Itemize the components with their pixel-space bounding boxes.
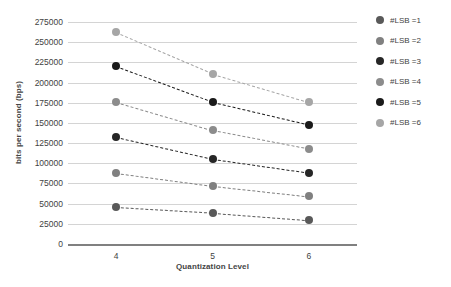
x-tick-label: 5 — [210, 251, 215, 261]
legend-marker-icon — [376, 78, 384, 86]
series-line-segment — [212, 74, 309, 103]
y-tick-label: 100000 — [35, 158, 63, 168]
data-point-marker — [112, 28, 120, 36]
y-tick-label: 25000 — [39, 219, 63, 229]
data-point-marker — [305, 98, 313, 106]
y-tick-label: 125000 — [35, 138, 63, 148]
x-axis-line — [68, 244, 357, 246]
y-tick-label: 175000 — [35, 98, 63, 108]
data-series-layer — [68, 22, 357, 244]
legend-item[interactable]: #LSB =5 — [376, 92, 448, 113]
y-axis-title: bits per second (bps) — [14, 53, 23, 193]
legend-marker-icon — [376, 37, 384, 45]
x-axis-title: Quantization Level — [68, 262, 357, 271]
series-line-segment — [116, 32, 213, 74]
legend-marker-icon — [376, 16, 384, 24]
legend: #LSB =1#LSB =2#LSB =3#LSB =4#LSB =5#LSB … — [376, 10, 448, 133]
legend-item[interactable]: #LSB =3 — [376, 51, 448, 72]
y-tick-label: 200000 — [35, 78, 63, 88]
legend-item[interactable]: #LSB =6 — [376, 113, 448, 134]
legend-item-label: #LSB =6 — [390, 118, 421, 127]
y-tick-label: 0 — [58, 239, 63, 249]
y-tick-label: 225000 — [35, 57, 63, 67]
legend-item-label: #LSB =4 — [390, 77, 421, 86]
data-series — [68, 22, 357, 244]
legend-marker-icon — [376, 119, 384, 127]
legend-item-label: #LSB =5 — [390, 98, 421, 107]
y-tick-label: 275000 — [35, 17, 63, 27]
plot-area: 2750002500002250002000001750001500001250… — [68, 22, 357, 244]
legend-item-label: #LSB =2 — [390, 36, 421, 45]
y-tick-label: 250000 — [35, 37, 63, 47]
legend-marker-icon — [376, 98, 384, 106]
chart-container: bits per second (bps) 275000250000225000… — [0, 0, 451, 287]
y-tick-label: 50000 — [39, 199, 63, 209]
legend-item[interactable]: #LSB =1 — [376, 10, 448, 31]
legend-marker-icon — [376, 57, 384, 65]
legend-item-label: #LSB =3 — [390, 57, 421, 66]
legend-item-label: #LSB =1 — [390, 16, 421, 25]
x-tick-label: 6 — [306, 251, 311, 261]
legend-item[interactable]: #LSB =4 — [376, 72, 448, 93]
y-tick-label: 150000 — [35, 118, 63, 128]
legend-item[interactable]: #LSB =2 — [376, 31, 448, 52]
y-tick-label: 75000 — [39, 178, 63, 188]
data-point-marker — [209, 70, 217, 78]
x-tick-label: 4 — [114, 251, 119, 261]
